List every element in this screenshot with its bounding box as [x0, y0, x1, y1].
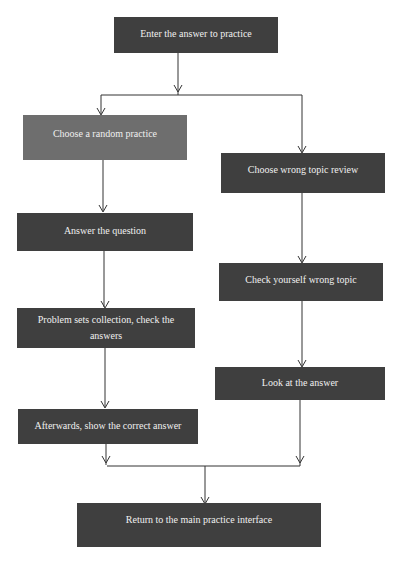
node-label: Enter the answer to practice: [140, 26, 252, 42]
node-enter-answer: Enter the answer to practice: [114, 17, 278, 53]
node-label: Choose a random practice: [53, 126, 157, 142]
node-label: Return to the main practice interface: [126, 512, 272, 528]
node-afterwards: Afterwards, show the correct answer: [18, 409, 198, 444]
node-label: Answer the question: [64, 223, 146, 239]
node-label: Choose wrong topic review: [248, 162, 358, 178]
node-answer-question: Answer the question: [17, 213, 193, 251]
node-label: Look at the answer: [262, 375, 338, 391]
node-label: Afterwards, show the correct answer: [35, 418, 182, 434]
node-look-at-answer: Look at the answer: [215, 367, 385, 400]
node-return-main: Return to the main practice interface: [77, 503, 321, 547]
node-wrong-topic-review: Choose wrong topic review: [221, 153, 385, 193]
node-problem-sets: Problem sets collection, check the answe…: [17, 308, 195, 348]
node-check-wrong-topic: Check yourself wrong topic: [219, 263, 383, 301]
node-label: Problem sets collection, check the answe…: [25, 312, 187, 344]
node-random-practice: Choose a random practice: [23, 115, 187, 160]
node-label: Check yourself wrong topic: [245, 272, 356, 288]
